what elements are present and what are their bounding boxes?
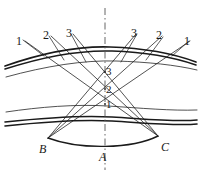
- base-chord-bc: [48, 136, 158, 138]
- lower-curve-upper: [6, 105, 197, 112]
- vertex-label-b: B: [39, 143, 46, 155]
- ray-label-right-3: 3: [131, 27, 137, 39]
- base-structure: [48, 136, 158, 146]
- ray-label-right-1: 1: [184, 35, 190, 47]
- leader-left-1: [23, 40, 44, 56]
- crossing-label-2: 2: [106, 84, 112, 95]
- ray-label-right-2: 2: [156, 29, 162, 41]
- vertex-label-c: C: [161, 141, 169, 153]
- ray-label-left-2: 2: [43, 29, 49, 41]
- diagram-canvas: [0, 0, 203, 175]
- upper-curve-band: [5, 47, 197, 77]
- ray-diagram-figure: 1 2 3 3 2 1 3 2 1 B A C: [0, 0, 203, 175]
- ray-label-left-3: 3: [66, 27, 72, 39]
- lower-curve-outer: [5, 120, 197, 126]
- vertex-label-a: A: [99, 151, 106, 163]
- crossing-label-3: 3: [106, 66, 112, 77]
- ray-label-left-1: 1: [16, 35, 22, 47]
- lower-curve-band: [5, 105, 197, 126]
- crossing-label-1: 1: [106, 99, 112, 110]
